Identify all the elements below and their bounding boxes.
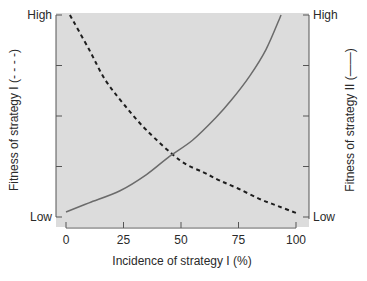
right-y-axis-title: Fitness of strategy II (——) bbox=[343, 48, 357, 191]
chart: LowHigh LowHigh 0255075100 Incidence of … bbox=[0, 0, 367, 281]
left-y-tick-label: High bbox=[27, 8, 52, 22]
x-tick-label: 0 bbox=[63, 233, 70, 247]
left-y-axis-title: Fitness of strategy I (- - - -) bbox=[7, 49, 21, 191]
left-y-tick-label: Low bbox=[30, 210, 52, 224]
plot-area bbox=[56, 13, 309, 227]
x-tick-label: 100 bbox=[286, 233, 306, 247]
x-tick-label: 25 bbox=[117, 233, 131, 247]
x-tick-label: 50 bbox=[174, 233, 188, 247]
x-tick-label: 75 bbox=[232, 233, 246, 247]
right-y-tick-label: High bbox=[313, 8, 338, 22]
x-axis-title: Incidence of strategy I (%) bbox=[112, 254, 251, 268]
right-y-tick-label: Low bbox=[313, 210, 335, 224]
